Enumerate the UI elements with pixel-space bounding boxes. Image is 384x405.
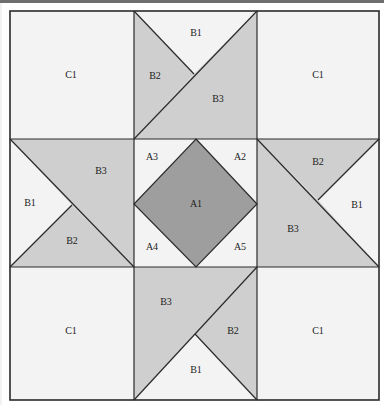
label-bottom-right-c1: C1 [312,325,324,336]
quilt-block-diagram: C1 B1 B2 B3 C1 B1 B2 B3 A1 A2 A3 A4 A5 B… [0,0,384,405]
label-middle-left-b1: B1 [24,197,36,208]
label-middle-right-b1: B1 [351,199,363,210]
label-top-right-c1: C1 [312,69,324,80]
label-center-a1: A1 [190,198,202,209]
label-bottom-center-b3: B3 [160,296,172,307]
label-middle-right-b3: B3 [287,223,299,234]
label-center-a5: A5 [234,241,246,252]
label-bottom-center-b1: B1 [190,364,202,375]
label-middle-left-b2: B2 [66,235,78,246]
label-center-a2: A2 [234,151,246,162]
label-top-center-b2: B2 [149,70,161,81]
label-bottom-center-b2: B2 [227,325,239,336]
label-middle-left-b3: B3 [95,165,107,176]
label-middle-right-b2: B2 [312,156,324,167]
label-top-left-c1: C1 [65,69,77,80]
label-bottom-left-c1: C1 [65,325,77,336]
label-top-center-b3: B3 [212,93,224,104]
label-center-a3: A3 [146,151,158,162]
label-top-center-b1: B1 [190,27,202,38]
label-center-a4: A4 [146,241,158,252]
